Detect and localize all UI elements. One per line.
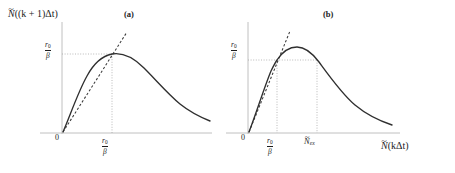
panel-a-y-tick-label: r0 β	[44, 41, 52, 60]
panel-a-x-tick-label: r0 β	[101, 137, 109, 156]
panel-b-map-curve	[249, 47, 392, 132]
tilde-accent-icon: ~	[304, 134, 309, 141]
panel-b-y-tick-numerator: r0	[230, 41, 238, 50]
panel-b-nex-subscript: ex	[310, 140, 315, 146]
panel-a-origin-label: 0	[55, 133, 59, 142]
panel-a-label: (a)	[124, 9, 134, 19]
panel-b-x-tick-nex-label: ~Nex	[304, 136, 315, 146]
panel-b-x-tick-label: r0 β	[266, 137, 274, 156]
panel-b-origin-label: 0	[241, 133, 245, 142]
panel-a-y-tick-numerator: r0	[44, 41, 52, 50]
panel-a-x-tick-numerator: r0	[101, 137, 109, 146]
panel-a-map-curve	[63, 54, 210, 132]
panel-b-x-tick-numerator: r0	[266, 137, 274, 146]
panel-a-tangent-line	[63, 32, 127, 132]
tilde-accent-icon: ~	[9, 6, 15, 14]
y-axis-label: ~N((k + 1)Δt)	[8, 8, 58, 19]
panel-b-y-tick-label: r0 β	[230, 41, 238, 60]
panel-a-x-tick-denominator: β	[102, 146, 108, 156]
panel-b-graphics	[226, 22, 400, 134]
panel-a-graphics	[40, 22, 212, 134]
panel-b-x-tick-denominator: β	[267, 146, 273, 156]
x-axis-label-arg: (kΔt)	[388, 140, 409, 151]
x-axis-label: ~N(kΔt)	[381, 140, 409, 151]
panel-b-label: (b)	[323, 9, 333, 19]
panel-a-y-tick-denominator: β	[45, 50, 51, 60]
figure-canvas: (a) (b) ~N((k + 1)Δt) ~N(kΔt) r0 β r0 β …	[0, 0, 455, 173]
tilde-accent-icon: ~	[382, 138, 388, 146]
panel-b-y-tick-denominator: β	[231, 50, 237, 60]
y-axis-label-arg: ((k + 1)Δt)	[15, 8, 58, 19]
